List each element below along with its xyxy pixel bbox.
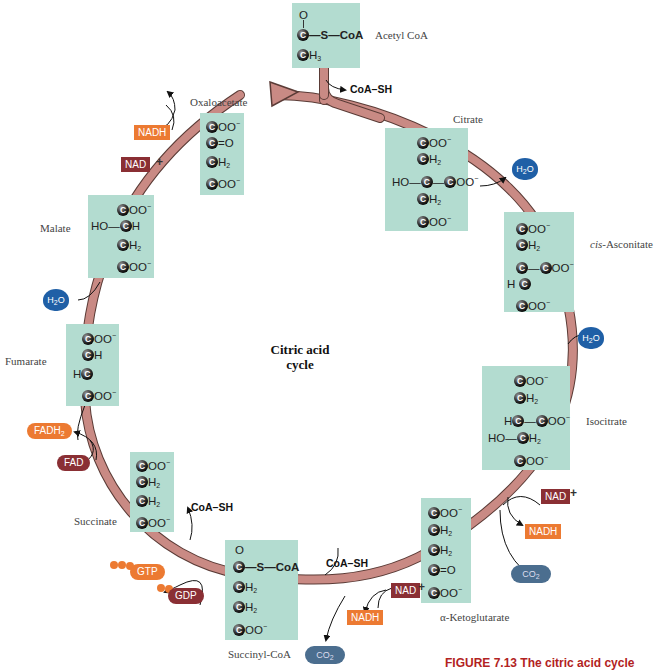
oxygen-atom: O [235,544,244,556]
carbonyl: =O [218,137,234,149]
molecule-box-citrate: COO− CH2 HO—C—COO− CH2 COO− [385,128,468,231]
subscript: 2 [437,199,441,206]
charge: − [458,506,462,513]
acyl-carbon-row: C—S—CoA [297,27,363,43]
hydroxyl: HO [488,432,505,444]
co2-molecule-isocitrate: CO2 [511,565,551,583]
phosphate-dot [110,561,118,569]
subscript: 2 [448,530,452,537]
bond: — [505,432,517,444]
carbon-atom: C [233,601,245,613]
carbon-atom: C [514,392,526,404]
subscript: 2 [448,550,452,557]
carbon-atom: C [136,476,148,488]
molecule-box-succinyl-coa: O C—S—CoA CH2 CH2 COO− [225,540,298,640]
charge: − [147,260,151,267]
nad-plus-sign: + [418,580,425,594]
carbon-atom: C [516,262,528,274]
carbon-atom: C [444,176,456,188]
cycle-center-title: Citric acid cycle [250,342,350,372]
molecule-box-fumarate: COO− CH HC COO− [66,324,119,406]
s-coa-group: —S—CoA [245,561,299,573]
carbon-atom: C [206,137,218,149]
carboxylate: OO [218,121,236,133]
subscript: 2 [437,159,441,166]
carbon-atom: C [233,624,245,636]
coa-sh-uptake-bottom: CoA–SH [326,557,368,569]
figure-caption: FIGURE 7.13 The citric acid cycle [445,656,634,670]
carbon-atom: C [136,495,148,507]
nad-tag-isocitrate: NAD [541,489,570,504]
s-coa-group: —S—CoA [309,29,363,41]
nadh-tag-malate: NADH [134,125,170,140]
carboxylate: OO [129,204,147,216]
charge: − [236,120,240,127]
subscript: 2 [156,482,160,489]
carbon-atom: C [428,524,440,536]
subscript: 2 [536,245,540,252]
charge: − [569,261,573,268]
nadh-tag-ketoglutarate: NADH [347,610,383,625]
carboxylate: OO [148,517,166,529]
subscript: 2 [156,501,160,508]
nad-plus-sign: + [570,486,577,500]
water-molecule-aconitate: H2O [578,327,604,349]
fumarate-label: Fumarate [5,355,47,367]
carbon-atom: C [82,349,94,361]
carbon-atom: C [536,415,548,427]
carbon-atom: C [512,415,524,427]
carbon-atom: C [516,300,528,312]
carbon-atom: C [117,261,129,273]
nadh-tag-isocitrate: NADH [525,524,561,539]
carbon-atom: C [516,239,528,251]
hydrogen: H [529,432,537,444]
fadh2-molecule: FADH2 [27,423,72,439]
carboxylate: OO [526,455,544,467]
carboxylate: OO [440,507,458,519]
carbon-atom: C [82,390,94,402]
bond: — [409,176,421,188]
bond: — [108,220,120,232]
molecule-box-isocitrate: COO− CH2 HC—COO− HO—CH2 COO− [482,366,570,470]
carbon-atom: C [428,507,440,519]
coa-sh-release-succinate: CoA–SH [191,501,233,513]
carbon-atom: C [519,278,531,290]
phosphate-dot [157,584,165,592]
bond: — [524,415,536,427]
malate-label: Malate [40,222,71,234]
charge: − [544,454,548,461]
carbon-atom: C [514,455,526,467]
carboxylate: OO [528,300,546,312]
charge: − [147,203,151,210]
charge: − [447,136,451,143]
nad-tag-malate: NAD [121,157,150,172]
carboxylate: OO [429,137,447,149]
isocitrate-label: Isocitrate [586,415,627,427]
acetyl-coa-label: Acetyl CoA [375,29,428,41]
alpha-ketoglutarate-label: α-Ketoglutarate [440,611,509,623]
carbon-atom: C [206,156,218,168]
carboxylate: OO [440,587,458,599]
charge: − [566,414,570,421]
carbon-atom: C [428,544,440,556]
hydrogen: H [94,349,102,361]
carboxylate: OO [245,624,263,636]
charge: − [458,586,462,593]
carboxylate: OO [148,460,166,472]
carboxylate: OO [94,390,112,402]
carbon-atom: C [136,517,148,529]
molecule-box-cis-aconitate: COO− CH2 C—COO− H C COO− [504,212,574,312]
water-molecule-citrate: H2O [512,158,538,180]
charge: − [236,177,240,184]
carbon-atom: C [428,564,440,576]
carboxylate: OO [548,415,566,427]
subscript: 2 [137,245,141,252]
carbon-atom: C [517,432,529,444]
nad-tag-ketoglutarate: NAD [391,583,420,598]
carboxylate: OO [94,333,112,345]
carboxylate: OO [526,375,544,387]
carbon-atom: C [297,49,309,61]
charge: − [546,222,550,229]
carbonyl: =O [440,564,456,576]
carboxylate: OO [218,178,236,190]
